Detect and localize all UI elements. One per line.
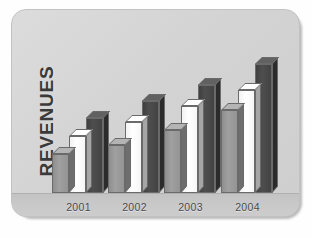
bar-side-face <box>272 57 278 193</box>
bar-front-face <box>52 154 69 193</box>
x-axis-label-2001: 2001 <box>48 201 109 213</box>
bar-front-face <box>221 110 238 193</box>
bar-front-face <box>108 145 125 193</box>
bar-front-face <box>164 130 181 193</box>
bar-group-2003 <box>164 43 223 193</box>
bar-side-face <box>181 123 187 193</box>
chart-plot-area: REVENUES 2001200220032004 <box>12 10 299 216</box>
x-axis-label-2003: 2003 <box>160 201 221 213</box>
bar-side-face <box>125 138 131 193</box>
bar-side-face <box>69 147 75 193</box>
bar-side-face <box>238 103 244 193</box>
bar-side-face <box>142 115 148 193</box>
screenshot-root: REVENUES 2001200220032004 <box>0 0 312 238</box>
bar-2003-series-1[interactable] <box>164 130 181 193</box>
chart-card: REVENUES 2001200220032004 <box>11 9 300 217</box>
bar-side-face <box>198 99 204 193</box>
x-axis-label-2002: 2002 <box>104 201 165 213</box>
bar-2001-series-1[interactable] <box>52 154 69 193</box>
bar-2002-series-1[interactable] <box>108 145 125 193</box>
bar-side-face <box>86 129 92 193</box>
bar-side-face <box>255 83 261 193</box>
chart-baseline <box>12 193 299 194</box>
bar-group-2002 <box>108 43 167 193</box>
bar-2004-series-1[interactable] <box>221 110 238 193</box>
bar-group-2004 <box>221 43 280 193</box>
x-axis-label-2004: 2004 <box>217 201 278 213</box>
bar-group-2001 <box>52 43 111 193</box>
